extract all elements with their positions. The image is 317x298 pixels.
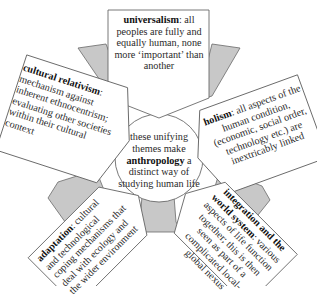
- theme-universalism: universalism: all peoples are fully and …: [110, 14, 208, 72]
- theme-separator: :: [179, 14, 182, 25]
- center-term: anthropology: [126, 155, 184, 166]
- center-pre: these unifying themes make: [130, 131, 188, 154]
- theme-term: universalism: [123, 14, 178, 25]
- center-statement: these unifying themes make anthropology …: [117, 131, 201, 190]
